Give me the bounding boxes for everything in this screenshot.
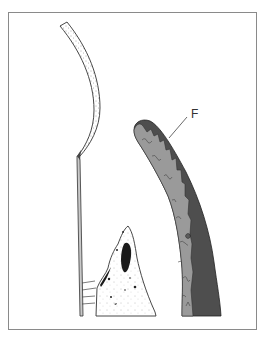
label-F-leader (169, 117, 187, 138)
illustration (0, 0, 267, 338)
stippled-peak (96, 226, 156, 316)
thin-rod (77, 150, 96, 316)
stippled-strip (60, 22, 100, 156)
label-F: F (191, 108, 198, 120)
curved-tube (134, 120, 221, 316)
